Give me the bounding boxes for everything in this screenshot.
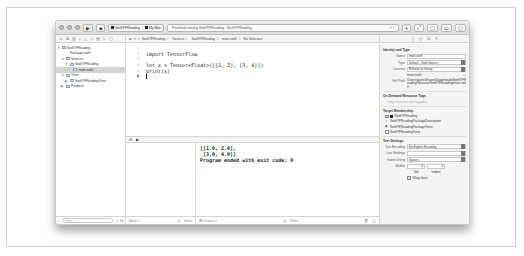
file-inspector-icon[interactable]: ▯ — [412, 36, 414, 41]
disclosure-open-icon[interactable]: ▼ — [61, 73, 64, 77]
location-row: LocationRelative to Group — [383, 67, 466, 72]
navigator-tabs: ▭ ⊠ ▥ ⌕ △ ◇ ▤ ▷ ▢ — [56, 35, 126, 42]
toolbar: ▶ ■ SwiftTFReading | My Mac Finished run… — [56, 21, 469, 35]
attributes-icon[interactable]: ⚲ — [435, 36, 438, 41]
quick-help-icon[interactable]: ⊚ — [427, 36, 430, 41]
console-bar: All Output ◊ ◎ Filter 🗑 ◫ — [196, 216, 379, 224]
source-code[interactable]: import TensorFlow let x = Tensor<Float>(… — [143, 44, 379, 136]
breadcrumb-target[interactable]: SwiftTFReading — [191, 37, 214, 41]
breadcrumb-file[interactable]: main.swift — [222, 37, 237, 41]
checkbox-unchecked-icon[interactable] — [385, 130, 389, 134]
breadcrumb-selection[interactable]: No Selection — [244, 37, 263, 41]
jump-bar: ⊞ < > SwiftTFReading 〉 Sources 〉 SwiftTF… — [126, 35, 379, 42]
code-line — [146, 74, 379, 80]
split-view-icon[interactable]: ◫ — [372, 218, 376, 224]
console-output[interactable]: [[1.0, 2.0], [3.0, 4.0]] Program ended w… — [196, 143, 379, 224]
variables-filter-input[interactable]: Filter — [184, 219, 192, 223]
name-field[interactable]: main.swift — [407, 54, 466, 59]
folder-icon — [66, 57, 70, 60]
trash-icon[interactable]: 🗑 — [364, 218, 368, 224]
breakpoints-toggle-icon[interactable]: ▶ — [136, 137, 139, 142]
target-item[interactable]: ⌂SwiftTFReadingPackageDescription — [383, 119, 466, 123]
forward-button[interactable]: > — [138, 37, 140, 41]
issue-icon[interactable]: △ — [84, 36, 87, 41]
toggle-debug-button[interactable]: ▭ — [441, 24, 452, 32]
source-control-icon[interactable]: ⊠ — [66, 36, 69, 41]
console-filter-input[interactable]: Filter — [290, 218, 298, 224]
disclosure-closed-icon[interactable]: ▶ — [65, 79, 68, 83]
breadcrumb-project[interactable]: SwiftTFReading — [142, 37, 165, 41]
symbol-icon[interactable]: ▥ — [72, 36, 76, 41]
search-icon[interactable]: ⌕ — [79, 36, 81, 41]
history-inspector-icon[interactable]: ◴ — [419, 36, 422, 41]
widths-labels-row: TabIndent — [383, 170, 466, 174]
toggle-navigator-button[interactable]: ▢ — [427, 24, 438, 32]
tab-width-field[interactable]: 4 — [407, 164, 425, 169]
stop-icon: ■ — [99, 25, 102, 31]
source-control-filter-icon[interactable]: ⊠ — [120, 219, 123, 223]
inspector-tabs: ▯ ◴ ⊚ ⚲ — [379, 35, 469, 42]
type-select[interactable]: Default - Swift Source — [407, 60, 466, 65]
name-row: Namemain.swift — [383, 54, 466, 59]
scheme-selector[interactable]: SwiftTFReading | My Mac — [108, 24, 164, 32]
console-line: Program ended with exit code: 0 — [200, 157, 375, 163]
report-icon[interactable]: ▢ — [109, 36, 113, 41]
disclosure-open-icon[interactable]: ▼ — [61, 57, 64, 61]
line-endings-select[interactable] — [407, 151, 466, 156]
debug-icon[interactable]: ▤ — [96, 36, 100, 41]
package-icon: ⌂ — [385, 120, 389, 124]
type-row: TypeDefault - Swift Source — [383, 60, 466, 65]
checkbox-checked-icon[interactable]: ✓ — [385, 115, 389, 119]
target-item[interactable]: SwiftTFReadingTests — [383, 130, 466, 134]
variables-bar: Auto ◊ ◎ Filter — [126, 216, 195, 224]
encoding-select[interactable]: No Explicit Encoding — [407, 144, 466, 149]
target-item[interactable]: ✓SwiftTFReading — [383, 114, 466, 118]
folder-icon — [66, 85, 70, 88]
breakpoint-icon[interactable]: ▷ — [103, 36, 106, 41]
disclosure-open-icon[interactable]: ▼ — [57, 46, 60, 50]
toggle-inspector-button[interactable]: ▢ — [455, 24, 466, 32]
indent-width-field[interactable]: 4 — [427, 164, 445, 169]
minimize-window-button[interactable] — [67, 25, 72, 30]
library-button[interactable]: + — [402, 24, 411, 32]
scheme-icon — [111, 26, 114, 29]
editor-area: 1 2 3 4 5 6 import TensorFlow let x = Te… — [126, 44, 379, 224]
back-button[interactable]: < — [134, 37, 136, 41]
file-inspector: Identity and Type Namemain.swift TypeDef… — [379, 44, 469, 224]
breadcrumb-sources[interactable]: Sources — [172, 37, 184, 41]
folder-icon[interactable]: ▭ — [59, 36, 63, 41]
divider — [383, 106, 466, 107]
disclosure-closed-icon[interactable]: ▶ — [61, 84, 64, 88]
zoom-window-button[interactable] — [75, 25, 80, 30]
run-button[interactable]: ▶ — [83, 24, 93, 32]
folder-icon — [66, 74, 70, 77]
popup-arrow-icon — [461, 144, 465, 149]
folder-browse-icon[interactable]: ▭ — [463, 73, 466, 77]
close-window-button[interactable] — [59, 25, 64, 30]
text-cursor — [146, 74, 147, 79]
indent-using-select[interactable]: Spaces — [407, 157, 466, 162]
navigator-filter-input[interactable]: Filter — [62, 218, 113, 223]
location-select[interactable]: Relative to Group — [407, 67, 466, 72]
stop-button[interactable]: ■ — [96, 24, 105, 32]
target-item[interactable]: ◉SwiftTFReadingPackageTests — [383, 125, 466, 129]
recent-files-icon[interactable]: ◷ — [115, 219, 118, 223]
scope-selector[interactable]: Auto ◊ — [129, 219, 139, 223]
mac-icon — [145, 26, 148, 29]
output-scope-selector[interactable]: All Output ◊ — [199, 218, 217, 224]
test-icon[interactable]: ◇ — [90, 36, 93, 41]
code-editor[interactable]: 1 2 3 4 5 6 import TensorFlow let x = Te… — [126, 44, 379, 136]
section-title: On Demand Resource Tags — [383, 94, 466, 98]
add-button[interactable]: + — [58, 219, 60, 223]
divider — [383, 91, 466, 92]
related-items-icon[interactable]: ⊞ — [129, 37, 132, 41]
disclosure-open-icon[interactable]: ▼ — [65, 62, 68, 66]
code-review-button[interactable]: ⤢ — [414, 24, 424, 32]
play-icon: ▶ — [86, 25, 90, 31]
workspace: ▼SwiftTFReading Package.swift ▼Sources ▼… — [56, 44, 469, 224]
tree-item-products[interactable]: ▶Products — [56, 84, 125, 90]
filter-icon: ◎ — [177, 219, 180, 223]
wrap-lines-checkbox[interactable]: ✓ — [407, 176, 411, 180]
hide-debug-area-icon[interactable]: ⊟ — [129, 137, 132, 142]
navigation-bar: ▭ ⊠ ▥ ⌕ △ ◇ ▤ ▷ ▢ ⊞ < > SwiftTFReading 〉… — [56, 35, 469, 43]
